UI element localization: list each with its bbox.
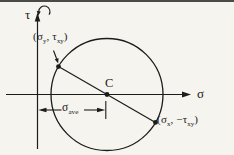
ccw-rotation-arrow-icon	[37, 6, 50, 16]
dimension-left-arrowhead	[38, 108, 46, 113]
mohr-circle-figure: τ σ C (σy, τxy) (σx, −τxy) σave	[0, 0, 234, 155]
sigma-axis-label: σ	[197, 87, 204, 100]
mohr-circle-diagram	[0, 0, 234, 155]
point-y-dot	[56, 64, 61, 69]
point-y-label: (σy, τxy)	[33, 31, 68, 42]
dimension-right-arrowhead	[97, 108, 105, 113]
leader-arrowhead	[55, 58, 59, 64]
tau-axis-label: τ	[25, 8, 30, 21]
circle-center-label: C	[105, 77, 114, 90]
sigma-axis-arrowhead	[182, 92, 191, 98]
point-y-leader-arrow	[54, 51, 59, 64]
sigma-ave-label: σave	[62, 102, 78, 114]
tau-axis-arrowhead	[35, 13, 41, 22]
point-x-label: (σx, −τxy)	[157, 114, 198, 125]
center-dot	[105, 92, 110, 97]
